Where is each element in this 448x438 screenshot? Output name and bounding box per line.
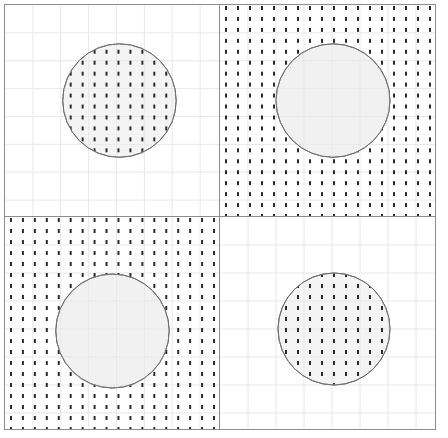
panel-bottom-right[interactable] xyxy=(220,217,435,429)
panel-grid xyxy=(4,4,436,430)
panel-top-left-canvas xyxy=(5,5,219,216)
panel-bottom-right-canvas xyxy=(220,217,435,429)
panel-top-right-canvas xyxy=(220,5,435,216)
figure-root xyxy=(0,0,448,438)
panel-bottom-left-canvas xyxy=(5,217,219,429)
panel-top-left[interactable] xyxy=(5,5,220,217)
panel-bottom-left[interactable] xyxy=(5,217,220,429)
panel-top-right[interactable] xyxy=(220,5,435,217)
